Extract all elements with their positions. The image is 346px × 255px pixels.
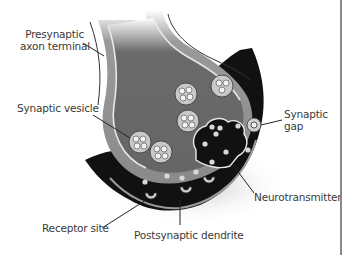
label-synaptic-gap-line2: gap	[284, 120, 328, 132]
axon-edge-left	[90, 22, 100, 105]
label-synaptic-vesicle: Synaptic vesicle	[17, 102, 99, 114]
label-presynaptic-axon-terminal: Presynaptic axon terminal	[20, 28, 84, 52]
label-presynaptic-line1: Presynaptic	[20, 28, 84, 40]
label-synaptic-gap: Synaptic gap	[284, 108, 328, 132]
vesicle	[177, 110, 199, 132]
label-presynaptic-line2: axon terminal	[20, 40, 84, 52]
vesicle	[175, 83, 197, 105]
frame-border-line	[340, 0, 342, 255]
label-synaptic-gap-line1: Synaptic	[284, 108, 328, 120]
vesicle	[150, 141, 172, 163]
leader-gap	[261, 120, 282, 125]
synapse-diagram: Presynaptic axon terminal Synaptic vesic…	[0, 0, 346, 255]
vesicle	[211, 75, 233, 97]
label-receptor-site: Receptor site	[42, 222, 109, 234]
vesicle	[129, 131, 151, 153]
label-neurotransmitter: Neurotransmitter	[254, 191, 341, 203]
label-postsynaptic-dendrite: Postsynaptic dendrite	[134, 229, 244, 241]
